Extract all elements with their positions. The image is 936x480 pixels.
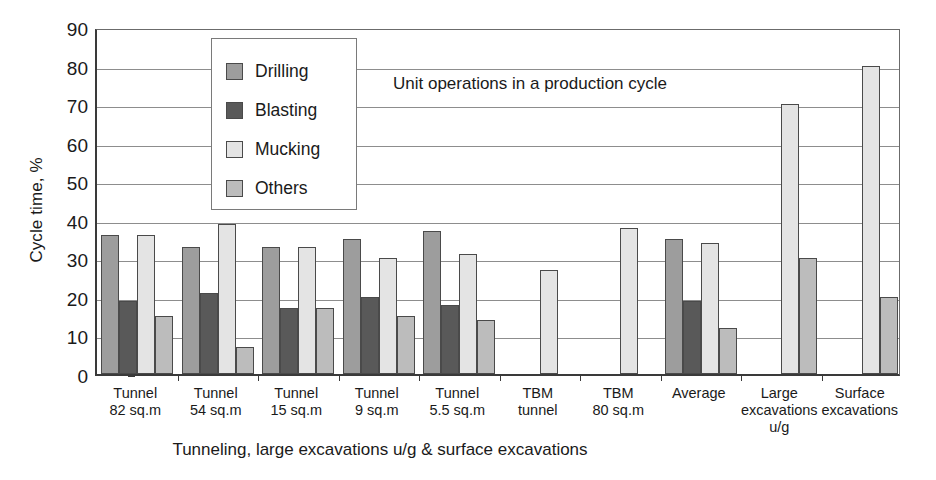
y-tick-label: 10 bbox=[50, 328, 88, 347]
y-tick-label: 50 bbox=[50, 174, 88, 193]
bar-mucking bbox=[379, 258, 397, 374]
x-axis-title: Tunneling, large excavations u/g & surfa… bbox=[0, 440, 760, 460]
bar-others bbox=[236, 347, 254, 374]
x-tick-mark bbox=[500, 374, 501, 381]
bar-blasting bbox=[441, 305, 459, 374]
legend-item[interactable]: Mucking bbox=[226, 130, 356, 169]
bar-drilling bbox=[262, 247, 280, 374]
x-category-line: 80 sq.m bbox=[570, 402, 667, 419]
bar-mucking bbox=[459, 254, 477, 374]
legend-swatch-others bbox=[226, 180, 243, 197]
bar-drilling bbox=[423, 231, 441, 374]
bar-others bbox=[880, 297, 898, 374]
y-tick-label: 80 bbox=[50, 58, 88, 77]
bar-mucking bbox=[298, 247, 316, 374]
bar-mucking bbox=[781, 104, 799, 374]
bar-others bbox=[719, 328, 737, 374]
bar-others bbox=[155, 316, 173, 374]
y-tick-label: 60 bbox=[50, 135, 88, 154]
legend-label-mucking: Mucking bbox=[255, 139, 320, 160]
bar-mucking bbox=[540, 270, 558, 374]
bar-chart: Cycle time, % 0102030405060708090 Unit o… bbox=[0, 0, 936, 480]
bar-others bbox=[799, 258, 817, 374]
x-tick-mark bbox=[419, 374, 420, 381]
legend-label-others: Others bbox=[255, 178, 308, 199]
bar-mucking bbox=[701, 243, 719, 374]
legend-label-drilling: Drilling bbox=[255, 61, 308, 82]
x-tick-mark bbox=[580, 374, 581, 381]
y-tick-label: 40 bbox=[50, 212, 88, 231]
bar-blasting bbox=[200, 293, 218, 374]
bar-drilling bbox=[665, 239, 683, 374]
x-tick-mark bbox=[661, 374, 662, 381]
bar-others bbox=[477, 320, 495, 374]
y-tick-label: 20 bbox=[50, 289, 88, 308]
legend: Drilling Blasting Mucking Others bbox=[211, 38, 357, 210]
y-tick-label: 30 bbox=[50, 251, 88, 270]
bar-others bbox=[397, 316, 415, 374]
bar-blasting bbox=[280, 308, 298, 374]
y-tick-mark bbox=[128, 376, 135, 377]
x-tick-mark bbox=[741, 374, 742, 381]
x-tick-mark bbox=[822, 374, 823, 381]
x-category-line: u/g bbox=[731, 419, 828, 436]
bar-drilling bbox=[343, 239, 361, 374]
bar-mucking bbox=[862, 66, 880, 374]
y-tick-label: 70 bbox=[50, 97, 88, 116]
bar-mucking bbox=[137, 235, 155, 374]
x-category-label: Surfaceexcavations bbox=[812, 385, 909, 419]
bar-mucking bbox=[620, 228, 638, 375]
chart-inner-title: Unit operations in a production cycle bbox=[300, 74, 760, 94]
x-tick-mark bbox=[258, 374, 259, 381]
bar-drilling bbox=[182, 247, 200, 374]
bar-mucking bbox=[218, 224, 236, 374]
legend-swatch-drilling bbox=[226, 63, 243, 80]
y-tick-label: 0 bbox=[50, 367, 88, 386]
bar-others bbox=[316, 308, 334, 374]
legend-swatch-blasting bbox=[226, 102, 243, 119]
bar-drilling bbox=[101, 235, 119, 374]
legend-item[interactable]: Drilling bbox=[226, 52, 356, 91]
y-axis-tick-labels: 0102030405060708090 bbox=[40, 0, 88, 480]
bar-blasting bbox=[361, 297, 379, 374]
legend-item[interactable]: Others bbox=[226, 169, 356, 208]
legend-item[interactable]: Blasting bbox=[226, 91, 356, 130]
bar-blasting bbox=[119, 301, 137, 374]
x-tick-mark bbox=[178, 374, 179, 381]
legend-label-blasting: Blasting bbox=[255, 100, 317, 121]
x-category-line: Surface bbox=[812, 385, 909, 402]
y-tick-label: 90 bbox=[50, 20, 88, 39]
bar-blasting bbox=[683, 301, 701, 374]
x-category-line: excavations bbox=[812, 402, 909, 419]
legend-swatch-mucking bbox=[226, 141, 243, 158]
x-tick-mark bbox=[339, 374, 340, 381]
